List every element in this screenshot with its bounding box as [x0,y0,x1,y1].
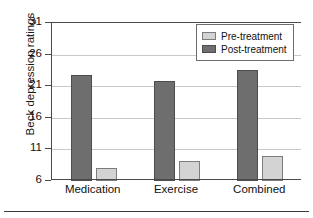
x-axis-label-medication: Medication [48,183,138,195]
x-axis-label-combined: Combined [214,183,304,195]
bottom-rule [4,211,309,212]
bar-post-treatment-medication [71,75,92,181]
y-tick-label: 11 [0,141,42,153]
legend-swatch-icon [202,45,216,53]
bar-post-treatment-combined [237,70,258,181]
y-tick-label: 21 [0,78,42,90]
x-axis-label-exercise: Exercise [131,183,221,195]
chart-figure: Beck depression ratings 61116212631 Medi… [0,0,313,218]
y-tick-label: 6 [0,173,42,185]
y-tick-label: 26 [0,47,42,59]
legend-label: Pre-treatment [221,31,282,42]
legend-swatch-icon [202,32,216,40]
y-tick-label: 16 [0,110,42,122]
x-axis-line [51,179,301,180]
chart-legend: Pre-treatmentPost-treatment [196,24,294,61]
y-tick-label: 31 [0,15,42,27]
bar-post-treatment-exercise [154,81,175,182]
bar-pre-treatment-combined [262,156,283,181]
bar-pre-treatment-exercise [179,161,200,181]
legend-item: Post-treatment [202,43,287,55]
legend-item: Pre-treatment [202,30,287,42]
legend-label: Post-treatment [221,44,287,55]
